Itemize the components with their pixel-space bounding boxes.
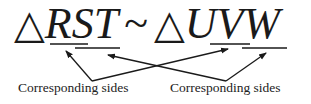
arrow-right-to-vw [226, 53, 266, 81]
label-right: Corresponding sides [170, 80, 281, 96]
label-left: Corresponding sides [18, 80, 129, 96]
arrow-right-to-st [108, 55, 226, 81]
arrow-left-to-uv [92, 49, 228, 81]
arrow-left-to-rs [66, 51, 92, 81]
